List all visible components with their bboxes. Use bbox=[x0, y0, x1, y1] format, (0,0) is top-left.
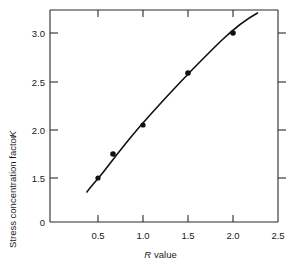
y-tick-label-0: 0 bbox=[40, 217, 45, 228]
y-axis-title-text: Stress concentration factor bbox=[7, 135, 18, 248]
data-point-3 bbox=[185, 70, 191, 76]
y-tick-label-2.5: 2.5 bbox=[32, 77, 45, 88]
data-curve-fitted bbox=[87, 13, 258, 192]
data-points bbox=[95, 30, 235, 180]
plot-frame bbox=[50, 10, 278, 222]
x-axis-ticks bbox=[98, 215, 233, 222]
y-axis-ticks bbox=[50, 33, 58, 178]
data-point-2 bbox=[140, 122, 145, 127]
x-axis-title-word: value bbox=[154, 249, 177, 260]
data-point-0 bbox=[95, 175, 100, 180]
x-tick-label-0.5: 0.5 bbox=[91, 230, 104, 241]
y-tick-label-1.5: 1.5 bbox=[32, 173, 45, 184]
x-axis-title: R value bbox=[144, 249, 177, 260]
x-tick-label-2.5: 2.5 bbox=[271, 230, 284, 241]
x-tick-label-1.0: 1.0 bbox=[136, 230, 149, 241]
data-point-4 bbox=[230, 30, 236, 36]
x-tick-label-2.0: 2.0 bbox=[226, 230, 239, 241]
top-axis-ticks bbox=[98, 10, 233, 17]
chart-figure: 3.0 2.5 2.0 1.5 0 0.5 1.0 1.5 2.0 2.5 R … bbox=[0, 0, 301, 265]
right-axis-ticks bbox=[278, 33, 286, 178]
y-axis-title: K Stress concentration factor bbox=[7, 130, 18, 248]
chart-svg: 3.0 2.5 2.0 1.5 0 0.5 1.0 1.5 2.0 2.5 R … bbox=[0, 0, 301, 265]
x-axis-title-symbol: R bbox=[144, 249, 151, 260]
y-tick-label-2.0: 2.0 bbox=[32, 125, 45, 136]
data-point-1 bbox=[110, 151, 116, 157]
x-tick-label-1.5: 1.5 bbox=[181, 230, 194, 241]
y-tick-label-3.0: 3.0 bbox=[32, 28, 45, 39]
